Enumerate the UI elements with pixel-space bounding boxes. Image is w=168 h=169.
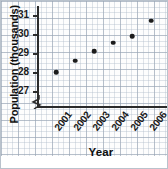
x-tick-label-2002: 2002 [72,110,93,133]
x-axis-tick-labels: 2001 2002 2003 2004 2005 2006 [37,108,167,142]
x-tick-label-2006: 2006 [148,110,168,133]
x-tick-label-2003: 2003 [91,110,112,133]
data-point-2006 [149,19,154,24]
y-tick-label-28: 28 [18,67,29,77]
x-axis-title: Year [37,147,165,159]
y-tick-label-29: 29 [18,48,29,58]
plot-area [37,10,165,104]
x-tick-label-2001: 2001 [53,110,74,133]
data-point-2004 [111,40,116,45]
y-axis-tick-labels: 31 30 29 28 27 [1,1,33,169]
y-tick-label-27: 27 [18,86,29,96]
data-point-2003 [92,49,97,54]
scatter-plot-figure: Population (thousands) 31 30 29 28 27 20… [0,0,168,169]
x-tick-label-2005: 2005 [129,110,150,133]
data-point-2002 [73,58,78,63]
y-tick-label-30: 30 [18,29,29,39]
x-tick-label-2004: 2004 [110,110,131,133]
data-point-2001 [54,70,59,75]
y-tick-label-31: 31 [18,10,29,20]
data-point-2005 [130,34,135,39]
